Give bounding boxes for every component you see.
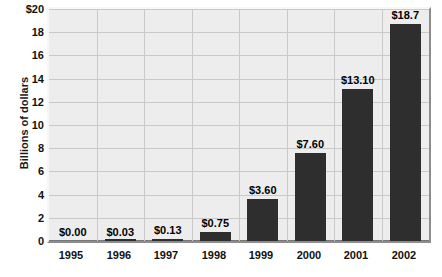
y-axis-tick-label: 6 — [0, 166, 44, 176]
y-axis-tick-label: 18 — [0, 27, 44, 37]
x-axis-tick-label-1998: 1998 — [190, 249, 238, 261]
x-axis-tick-label-1997: 1997 — [142, 249, 190, 261]
y-axis-tick-label: 12 — [0, 97, 44, 107]
vertical-gridline — [239, 9, 240, 241]
bar-chart: Billions of dollars $20181614121086420 1… — [0, 0, 442, 277]
vertical-gridline — [192, 9, 193, 241]
bar-value-label-1995: $0.00 — [49, 227, 97, 238]
bar-value-label-2002: $18.7 — [382, 10, 430, 21]
bar-1996 — [105, 239, 136, 241]
y-axis-tick-labels: $20181614121086420 — [0, 0, 44, 277]
bar-value-label-1997: $0.13 — [144, 225, 192, 236]
vertical-gridline — [144, 9, 145, 241]
bar-2001 — [342, 89, 373, 241]
x-axis-tick-label-2001: 2001 — [332, 249, 380, 261]
bar-1998 — [200, 232, 231, 241]
x-axis-tick-label-2002: 2002 — [380, 249, 428, 261]
bar-2000 — [295, 153, 326, 241]
y-axis-tick-label: 16 — [0, 50, 44, 60]
x-axis-tick-label-1996: 1996 — [95, 249, 143, 261]
y-axis-tick-label: 2 — [0, 213, 44, 223]
y-axis-tick-label: 0 — [0, 236, 44, 246]
y-axis-tick-label: 8 — [0, 143, 44, 153]
vertical-gridline — [334, 9, 335, 241]
bar-value-label-2000: $7.60 — [287, 139, 335, 150]
y-axis-tick-label: $20 — [0, 4, 44, 14]
y-axis-tick-label: 4 — [0, 190, 44, 200]
vertical-gridline — [97, 9, 98, 241]
bar-1997 — [152, 239, 183, 241]
x-axis-tick-label-1999: 1999 — [237, 249, 285, 261]
bar-value-label-1999: $3.60 — [239, 185, 287, 196]
bar-1999 — [247, 199, 278, 241]
x-axis-tick-label-2000: 2000 — [285, 249, 333, 261]
y-axis-tick-label: 14 — [0, 74, 44, 84]
bar-2002 — [390, 24, 421, 241]
x-axis-tick-labels: 19951996199719981999200020012002 — [47, 249, 431, 269]
bar-value-label-1998: $0.75 — [192, 218, 240, 229]
vertical-gridline — [382, 9, 383, 241]
plot-area — [49, 9, 429, 241]
vertical-gridline — [287, 9, 288, 241]
y-axis-tick-label: 10 — [0, 120, 44, 130]
x-axis-tick-label-1995: 1995 — [47, 249, 95, 261]
bar-value-label-2001: $13.10 — [334, 75, 382, 86]
bar-value-label-1996: $0.03 — [97, 227, 145, 238]
plot-frame — [47, 7, 431, 243]
